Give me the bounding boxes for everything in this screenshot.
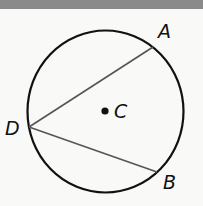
center-point-c — [101, 107, 108, 114]
label-d: D — [5, 119, 20, 138]
chord-da — [29, 47, 153, 127]
label-b: B — [163, 173, 176, 192]
label-c: C — [114, 102, 127, 121]
label-a: A — [158, 22, 171, 41]
